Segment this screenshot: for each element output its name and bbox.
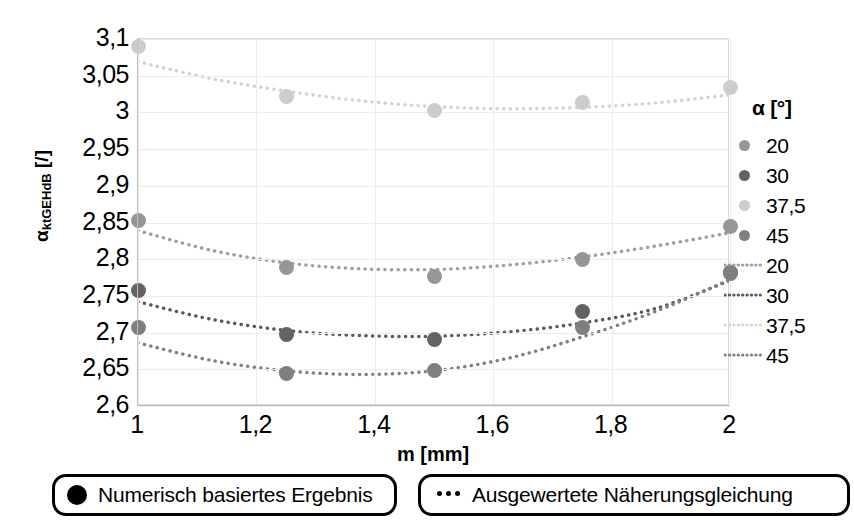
bottom-key-boxes: Numerisch basiertes Ergebnis Ausgewertet… [0, 474, 854, 521]
data-point [131, 283, 146, 298]
gridline-horizontal [138, 186, 728, 187]
y-tick-label: 3,05 [9, 62, 129, 87]
legend-label: 20 [766, 135, 789, 156]
gridline-horizontal [138, 259, 728, 260]
data-point [131, 320, 146, 335]
x-tick-label: 2 [689, 410, 769, 438]
y-axis-title-symbol: α [31, 230, 52, 242]
legend-label: 30 [766, 165, 789, 186]
data-point [427, 332, 442, 347]
gridline-horizontal [138, 76, 728, 77]
x-axis-line [137, 405, 730, 406]
key-label-approx: Ausgewertete Näherungsgleichung [472, 483, 793, 507]
legend-dotted-line-icon [722, 262, 766, 268]
key-box-approximation: Ausgewertete Näherungsgleichung [418, 474, 850, 516]
y-tick-label: 2,9 [9, 172, 129, 197]
gridline-vertical [493, 39, 494, 404]
x-tick-label: 1,4 [334, 410, 414, 438]
y-tick-label: 2,8 [9, 245, 129, 270]
data-point [575, 95, 590, 110]
y-tick-label: 2,85 [9, 209, 129, 234]
fit-curve-20 [138, 231, 729, 270]
legend-entry-marker-30[interactable]: 30 [722, 160, 850, 190]
legend: α [°] 203037,545203037,545 [722, 96, 850, 370]
series-layer [137, 38, 729, 405]
y-tick-label: 2,95 [9, 135, 129, 160]
x-tick-label: 1,2 [215, 410, 295, 438]
legend-marker-icon [722, 140, 766, 151]
data-point [279, 366, 294, 381]
legend-dotted-line-icon [722, 322, 766, 328]
x-tick-label: 1 [97, 410, 177, 438]
legend-label: 37,5 [766, 315, 805, 336]
data-point [279, 327, 294, 342]
fit-curve-37-5 [138, 62, 729, 109]
key-box-numeric-result: Numerisch basiertes Ergebnis [52, 474, 397, 516]
data-point [723, 80, 738, 95]
gridline-horizontal [138, 39, 728, 40]
x-tick-label: 1,6 [452, 410, 532, 438]
legend-label: 45 [766, 225, 789, 246]
y-tick-label: 3,1 [9, 25, 129, 50]
legend-entry-marker-37-5[interactable]: 37,5 [722, 190, 850, 220]
data-point [427, 269, 442, 284]
legend-marker-icon [722, 200, 766, 211]
x-tick-label: 1,8 [571, 410, 651, 438]
legend-label: 20 [766, 255, 789, 276]
y-axis-line [137, 38, 138, 406]
legend-dotted-line-icon [722, 352, 766, 358]
legend-marker-icon [722, 230, 766, 241]
legend-entry-line-45[interactable]: 45 [722, 340, 850, 370]
dotted-line-icon [433, 491, 463, 499]
x-axis-title: m [mm] [137, 443, 729, 466]
data-point [131, 213, 146, 228]
plot-area [137, 38, 729, 405]
legend-entry-line-20[interactable]: 20 [722, 250, 850, 280]
y-tick-label: 2,65 [9, 355, 129, 380]
data-point [131, 39, 146, 54]
data-point [427, 103, 442, 118]
gridline-horizontal [138, 406, 728, 407]
legend-marker-icon [722, 170, 766, 181]
legend-label: 45 [766, 345, 789, 366]
data-point [279, 89, 294, 104]
legend-entry-marker-20[interactable]: 20 [722, 130, 850, 160]
legend-entry-line-37-5[interactable]: 37,5 [722, 310, 850, 340]
y-axis-title-unit: [/] [31, 150, 52, 173]
data-point [575, 252, 590, 267]
gridline-horizontal [138, 149, 728, 150]
gridline-horizontal [138, 296, 728, 297]
data-point [427, 363, 442, 378]
legend-dotted-line-icon [722, 292, 766, 298]
gridline-vertical [612, 39, 613, 404]
y-tick-label: 2,75 [9, 282, 129, 307]
gridline-horizontal [138, 223, 728, 224]
y-axis-title-subscript: ktGEHdB [39, 173, 54, 230]
fit-curve-30 [138, 280, 729, 336]
legend-label: 37,5 [766, 195, 805, 216]
y-axis-title: αktGEHdB [/] [31, 106, 53, 286]
y-tick-label: 3 [9, 98, 129, 123]
data-point [575, 320, 590, 335]
legend-entry-marker-45[interactable]: 45 [722, 220, 850, 250]
legend-label: 30 [766, 285, 789, 306]
legend-entry-line-30[interactable]: 30 [722, 280, 850, 310]
y-tick-label: 2,7 [9, 319, 129, 344]
key-label-numeric: Numerisch basiertes Ergebnis [98, 483, 373, 507]
legend-entries: 203037,545203037,545 [722, 130, 850, 370]
gridline-vertical [256, 39, 257, 404]
legend-title: α [°] [752, 96, 850, 120]
fit-curve-45 [138, 280, 729, 375]
filled-circle-icon [67, 485, 87, 505]
chart-figure: 3,13,0532,952,92,852,82,752,72,652,6 11,… [0, 0, 854, 521]
gridline-vertical [375, 39, 376, 404]
data-point [575, 304, 590, 319]
data-point [279, 260, 294, 275]
